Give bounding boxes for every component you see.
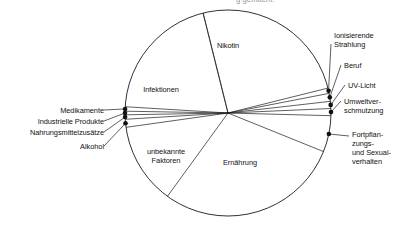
- arc-dot-marker: [329, 110, 334, 115]
- arc-dot-marker: [123, 107, 128, 112]
- callout-label-uv-licht: UV-Licht: [348, 82, 376, 91]
- slice-label-infektionen: Infektionen: [116, 86, 206, 95]
- slice-label-nikotin: Nikotin: [178, 42, 278, 51]
- leader-line: [329, 44, 331, 91]
- callout-label-alkohol: Alkohol: [0, 143, 104, 152]
- callout-label-nahrungsmittelzusaetze: Nahrungsmittelzusätze: [0, 129, 104, 138]
- callout-label-industrielle-produkte: Industrielle Produkte: [0, 118, 104, 127]
- arc-dot-marker: [123, 121, 128, 126]
- arc-dot-marker: [326, 88, 331, 93]
- callout-label-beruf: Beruf: [344, 62, 361, 71]
- leader-line: [104, 113, 125, 121]
- callout-label-ionisierende-strahlung-line2: Strahlung: [334, 41, 365, 50]
- leader-line: [104, 123, 126, 146]
- slice-label-ernaehrung: Ernährung: [190, 159, 290, 168]
- callout-label-medikamente: Medikamente: [0, 107, 104, 116]
- callout-label-fortpflanzung-line4: verhalten: [352, 158, 382, 167]
- figure-canvas: g gemacht. Nikotin Infektionen unbekannt…: [0, 0, 416, 237]
- arc-dot-marker: [328, 103, 333, 108]
- callout-label-umweltverschmutzung-line2: schmutzung: [344, 107, 383, 116]
- arc-dot-marker: [328, 95, 333, 100]
- arc-dot-marker: [327, 132, 332, 137]
- arc-dot-marker: [123, 111, 128, 116]
- arc-dot-marker: [123, 115, 128, 120]
- leader-line: [329, 134, 349, 136]
- leader-line: [104, 117, 125, 132]
- leader-line: [104, 109, 125, 110]
